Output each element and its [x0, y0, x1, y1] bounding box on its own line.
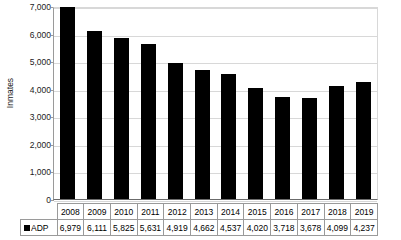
table-cell-adp: 4,099 — [324, 220, 351, 236]
table-header-year: 2011 — [137, 204, 164, 220]
table-row-years: 2008200920102011201220132014201520162017… — [21, 204, 378, 220]
legend-label-adp: ADP — [31, 223, 48, 233]
y-tick-label: 5,000 — [3, 57, 51, 67]
y-tick-label: 6,000 — [3, 30, 51, 40]
bar-slot — [162, 8, 189, 199]
bar — [329, 86, 344, 199]
gridline — [54, 201, 377, 202]
bar-series-adp — [54, 8, 377, 199]
table-header-year: 2013 — [191, 204, 218, 220]
bar-slot — [269, 8, 296, 199]
y-axis-tick-labels: 7,0006,0005,0004,0003,0002,0001,0000 — [0, 0, 51, 207]
bar — [302, 98, 317, 199]
table-cell-adp: 3,678 — [297, 220, 324, 236]
table-cell-adp: 5,631 — [137, 220, 164, 236]
bar — [60, 7, 75, 199]
y-tick-label: 4,000 — [3, 85, 51, 95]
bar — [114, 38, 129, 199]
bar-slot — [216, 8, 243, 199]
table-corner-cell — [21, 204, 58, 220]
bar — [195, 70, 210, 199]
table-header-year: 2009 — [84, 204, 111, 220]
table-cell-adp: 6,111 — [84, 220, 111, 236]
legend-swatch-icon — [24, 225, 30, 231]
table-cell-adp: 5,825 — [110, 220, 137, 236]
table-row-adp: ADP 6,9796,1115,8255,6314,9194,6624,5374… — [21, 220, 378, 236]
y-tick-label: 7,000 — [3, 2, 51, 12]
y-tick-label: 2,000 — [3, 140, 51, 150]
plot-area — [53, 7, 378, 200]
table-cell-adp: 4,537 — [217, 220, 244, 236]
y-tick-label: 1,000 — [3, 167, 51, 177]
table-cell-adp: 4,662 — [191, 220, 218, 236]
bar-slot — [81, 8, 108, 199]
table-header-year: 2008 — [57, 204, 84, 220]
bar-chart: Inmates 7,0006,0005,0004,0003,0002,0001,… — [0, 0, 401, 240]
table-cell-adp: 3,718 — [271, 220, 298, 236]
table-header-year: 2018 — [324, 204, 351, 220]
bar-slot — [189, 8, 216, 199]
bar-slot — [323, 8, 350, 199]
table-cell-adp: 4,020 — [244, 220, 271, 236]
data-table: 2008200920102011201220132014201520162017… — [20, 203, 378, 236]
bar-slot — [296, 8, 323, 199]
y-tick-label: 3,000 — [3, 112, 51, 122]
bar-slot — [54, 8, 81, 199]
legend-cell-adp: ADP — [21, 220, 58, 236]
bar-slot — [108, 8, 135, 199]
bar-slot — [350, 8, 377, 199]
table-header-year: 2017 — [297, 204, 324, 220]
bar — [356, 82, 371, 199]
bar — [141, 44, 156, 199]
table-header-year: 2015 — [244, 204, 271, 220]
bar — [275, 97, 290, 200]
table-header-year: 2016 — [271, 204, 298, 220]
table-cell-adp: 4,919 — [164, 220, 191, 236]
bar — [248, 88, 263, 199]
bar — [168, 63, 183, 199]
table-header-year: 2014 — [217, 204, 244, 220]
bar-slot — [135, 8, 162, 199]
bar — [221, 74, 236, 199]
table-header-year: 2010 — [110, 204, 137, 220]
table-header-year: 2012 — [164, 204, 191, 220]
table-cell-adp: 4,237 — [351, 220, 378, 236]
bar-slot — [242, 8, 269, 199]
table-cell-adp: 6,979 — [57, 220, 84, 236]
bar — [87, 31, 102, 199]
table-header-year: 2019 — [351, 204, 378, 220]
